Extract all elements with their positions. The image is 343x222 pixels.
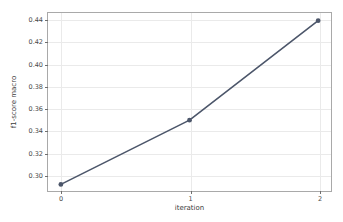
y-axis-label: f1-score macro [8,12,20,192]
data-point [187,118,192,123]
x-tick-mark [320,191,321,194]
line-series-f1-score-macro [61,21,318,185]
y-tick-label: 0.42 [29,39,43,46]
y-tick-label: 0.36 [29,106,43,113]
x-tick-label: 1 [188,196,192,203]
x-tick-mark [191,191,192,194]
x-axis-label: iteration [47,205,332,212]
data-point [58,182,63,187]
data-point-markers [58,18,320,186]
y-tick-label: 0.30 [29,173,43,180]
y-tick-label: 0.44 [29,17,43,24]
y-tick-label: 0.34 [29,128,43,135]
x-tick-mark [61,191,62,194]
chart-figure: 0.300.320.340.360.380.400.420.44 012 ite… [0,0,343,222]
x-tick-label: 0 [59,196,63,203]
y-tick-label: 0.32 [29,150,43,157]
plot-area: 0.300.320.340.360.380.400.420.44 012 [47,12,332,192]
x-tick-label: 2 [318,196,322,203]
y-tick-label: 0.40 [29,61,43,68]
y-tick-label: 0.38 [29,84,43,91]
data-point [316,18,321,23]
data-series-svg [48,13,331,191]
